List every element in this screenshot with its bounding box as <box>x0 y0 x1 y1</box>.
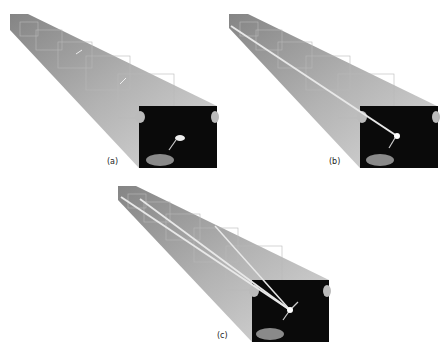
panel-label-c: (c) <box>217 331 228 340</box>
panel-a <box>10 14 219 168</box>
panel-b <box>229 14 440 168</box>
panel-c <box>118 186 331 342</box>
panel-label-b: (b) <box>329 157 340 166</box>
panel-label-a: (a) <box>107 157 118 166</box>
figure-canvas <box>0 0 446 351</box>
